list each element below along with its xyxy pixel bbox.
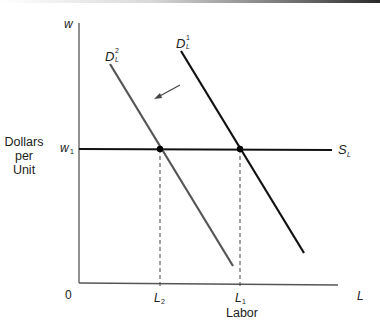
equilibrium-point-L2 bbox=[157, 146, 163, 152]
x-axis-symbol: L bbox=[357, 289, 364, 303]
x-axis bbox=[79, 283, 338, 285]
svg-text:1: 1 bbox=[186, 34, 190, 41]
svg-text:D: D bbox=[105, 49, 114, 64]
labor-demand-diagram: w Dollars per Unit w 1 0 L 2 L 1 L Labor… bbox=[0, 0, 380, 328]
origin-label: 0 bbox=[65, 288, 72, 302]
x-axis-title: Labor bbox=[226, 306, 258, 320]
svg-text:0: 0 bbox=[65, 288, 72, 302]
svg-text:L: L bbox=[154, 291, 161, 305]
svg-text:Labor: Labor bbox=[226, 306, 258, 320]
svg-text:Unit: Unit bbox=[13, 163, 36, 177]
y-axis-title: Dollars per Unit bbox=[5, 135, 44, 177]
svg-text:w: w bbox=[64, 17, 74, 31]
svg-text:w: w bbox=[60, 141, 70, 155]
w1-tick-label: w 1 bbox=[60, 141, 74, 155]
svg-text:L: L bbox=[115, 56, 119, 63]
svg-text:2: 2 bbox=[115, 47, 119, 54]
L1-tick-label: L 1 bbox=[235, 291, 246, 305]
svg-text:Dollars: Dollars bbox=[5, 135, 44, 149]
shift-arrow-icon bbox=[154, 85, 180, 99]
svg-text:2: 2 bbox=[161, 298, 165, 305]
demand-curve-D2 bbox=[110, 64, 233, 266]
svg-text:per: per bbox=[15, 149, 33, 163]
D2-curve-label: D 2 L bbox=[105, 47, 119, 64]
y-axis-symbol: w bbox=[64, 17, 74, 31]
svg-text:S: S bbox=[338, 142, 347, 157]
D1-curve-label: D 1 L bbox=[176, 34, 190, 51]
SL-curve-label: S L bbox=[338, 142, 351, 158]
svg-text:1: 1 bbox=[242, 298, 246, 305]
L2-tick-label: L 2 bbox=[154, 291, 165, 305]
equilibrium-point-L1 bbox=[237, 146, 243, 152]
svg-text:L: L bbox=[235, 291, 242, 305]
demand-curve-D1 bbox=[181, 51, 304, 253]
supply-curve-SL bbox=[79, 149, 332, 150]
svg-text:D: D bbox=[176, 36, 185, 51]
svg-text:1: 1 bbox=[70, 148, 74, 155]
svg-text:L: L bbox=[357, 289, 364, 303]
svg-text:L: L bbox=[347, 151, 351, 158]
svg-text:L: L bbox=[186, 43, 190, 50]
